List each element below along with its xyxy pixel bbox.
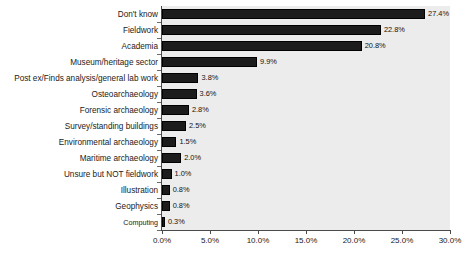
category-label: Environmental archaeology [0,138,158,147]
bar-container: 2.5% [162,118,206,134]
bar-value-label: 22.8% [384,26,405,34]
x-axis-tick-label: 10.0% [247,236,270,245]
bar-row: Museum/heritage sector9.9% [0,54,465,70]
bar [162,25,381,35]
x-axis-tick-label: 0.0% [153,236,171,245]
y-axis-tick [157,86,161,87]
category-label: Osteoarchaeology [0,90,158,99]
bar-value-label: 9.9% [260,58,277,66]
y-axis-tick [157,102,161,103]
category-label: Computing [0,218,158,227]
y-axis-tick [157,54,161,55]
category-label: Illustration [0,186,158,195]
bar-container: 1.0% [162,166,191,182]
x-axis-tick-mark [402,230,403,234]
y-axis-tick [157,230,161,231]
bar-container: 2.8% [162,102,209,118]
bar [162,73,198,83]
bar-container: 2.0% [162,150,201,166]
bar-row: Forensic archaeology2.8% [0,102,465,118]
bar-value-label: 0.3% [168,218,185,226]
x-axis-tick-mark [162,230,163,234]
category-label: Geophysics [0,202,158,211]
bar [162,41,362,51]
bar-chart: Don't know27.4%Fieldwork22.8%Academia20.… [0,0,465,260]
bar-row: Illustration0.8% [0,182,465,198]
y-axis-tick [157,70,161,71]
x-axis-tick-mark [258,230,259,234]
bar [162,105,189,115]
y-axis-tick [157,214,161,215]
x-axis-tick-label: 25.0% [391,236,414,245]
x-axis-tick-label: 5.0% [201,236,219,245]
bar-value-label: 2.0% [184,154,201,162]
bar [162,217,165,227]
bar [162,169,172,179]
x-axis-tick-label: 30.0% [439,236,462,245]
bar-container: 3.6% [162,86,216,102]
bar-value-label: 0.8% [173,186,190,194]
bar-row: Post ex/Finds analysis/general lab work3… [0,70,465,86]
category-label: Survey/standing buildings [0,122,158,131]
y-axis-tick [157,134,161,135]
bar-row: Survey/standing buildings2.5% [0,118,465,134]
x-axis-tick-mark [354,230,355,234]
x-axis-tick-label: 15.0% [295,236,318,245]
bar-container: 3.8% [162,70,218,86]
category-label: Forensic archaeology [0,106,158,115]
bar-row: Osteoarchaeology3.6% [0,86,465,102]
y-axis-tick [157,198,161,199]
bar [162,121,186,131]
bar [162,57,257,67]
category-label: Academia [0,42,158,51]
category-label: Post ex/Finds analysis/general lab work [0,74,158,83]
y-axis-tick [157,166,161,167]
bar-container: 0.8% [162,198,190,214]
bar-value-label: 3.6% [200,90,217,98]
bar-container: 9.9% [162,54,277,70]
category-label: Fieldwork [0,26,158,35]
bar-container: 1.5% [162,134,196,150]
bar [162,9,425,19]
x-axis-tick-mark [210,230,211,234]
bar-container: 20.8% [162,38,386,54]
y-axis-tick [157,150,161,151]
bar [162,89,197,99]
x-axis-ticks: 0.0%5.0%10.0%15.0%20.0%25.0%30.0% [0,230,465,256]
bar-value-label: 0.8% [173,202,190,210]
bar-value-label: 2.8% [192,106,209,114]
bar [162,137,176,147]
category-label: Museum/heritage sector [0,58,158,67]
bar [162,201,170,211]
bar-row: Don't know27.4% [0,6,465,22]
x-axis-tick-mark [450,230,451,234]
bar-value-label: 1.5% [179,138,196,146]
y-axis-tick [157,22,161,23]
category-label: Don't know [0,10,158,19]
bar-container: 0.3% [162,214,185,230]
bar-container: 22.8% [162,22,405,38]
bar [162,153,181,163]
bar-row: Environmental archaeology1.5% [0,134,465,150]
bar-value-label: 27.4% [428,10,449,18]
bar-row: Computing0.3% [0,214,465,230]
category-label: Maritime archaeology [0,154,158,163]
bar-value-label: 2.5% [189,122,206,130]
bar-value-label: 20.8% [365,42,386,50]
bar-row: Academia20.8% [0,38,465,54]
bar-value-label: 3.8% [201,74,218,82]
y-axis-tick [157,38,161,39]
bar [162,185,170,195]
bar-rows: Don't know27.4%Fieldwork22.8%Academia20.… [0,6,465,230]
y-axis-tick [157,118,161,119]
y-axis-tick [157,182,161,183]
bar-row: Unsure but NOT fieldwork1.0% [0,166,465,182]
bar-value-label: 1.0% [175,170,192,178]
bar-row: Fieldwork22.8% [0,22,465,38]
category-label: Unsure but NOT fieldwork [0,170,158,179]
bar-row: Geophysics0.8% [0,198,465,214]
bar-container: 27.4% [162,6,449,22]
x-axis-tick-mark [306,230,307,234]
x-axis-tick-label: 20.0% [343,236,366,245]
bar-row: Maritime archaeology2.0% [0,150,465,166]
